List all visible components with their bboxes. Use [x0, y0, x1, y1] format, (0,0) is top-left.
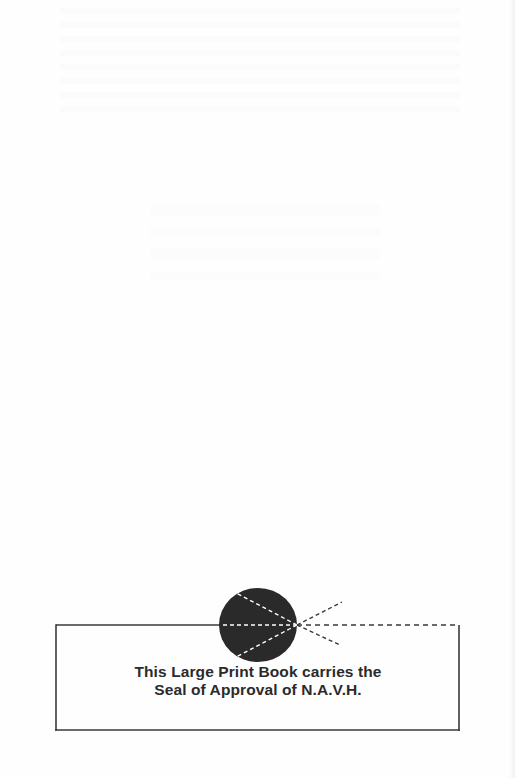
seal-ray-out-upper [297, 602, 342, 625]
seal-ray-out-lower [297, 625, 340, 645]
book-page: This Large Print Book carries the Seal o… [0, 0, 515, 778]
navh-seal-icon [219, 588, 342, 662]
notice-line-1: This Large Print Book carries the [56, 663, 460, 681]
notice-line-2: Seal of Approval of N.A.V.H. [56, 681, 460, 699]
seal-of-approval-graphic [0, 0, 515, 778]
